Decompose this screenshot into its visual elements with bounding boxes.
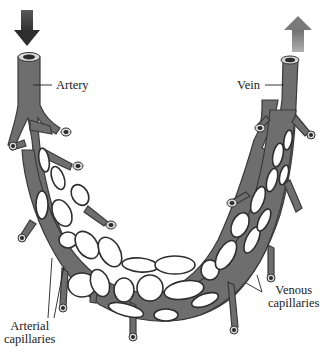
vein-label: Vein	[237, 79, 260, 92]
artery-label: Artery	[56, 79, 89, 92]
arrow-down-icon	[14, 10, 40, 46]
venous-capillaries-label: Venous capillaries	[268, 284, 319, 310]
capillary-bed-diagram: Artery Vein Venous capillaries Arterial …	[0, 0, 329, 359]
arterial-capillaries-line2: capillaries	[4, 333, 55, 346]
venous-capillaries-line2: capillaries	[268, 297, 319, 310]
arterial-capillaries-label: Arterial capillaries	[4, 320, 55, 346]
arrow-up-icon	[284, 16, 312, 52]
